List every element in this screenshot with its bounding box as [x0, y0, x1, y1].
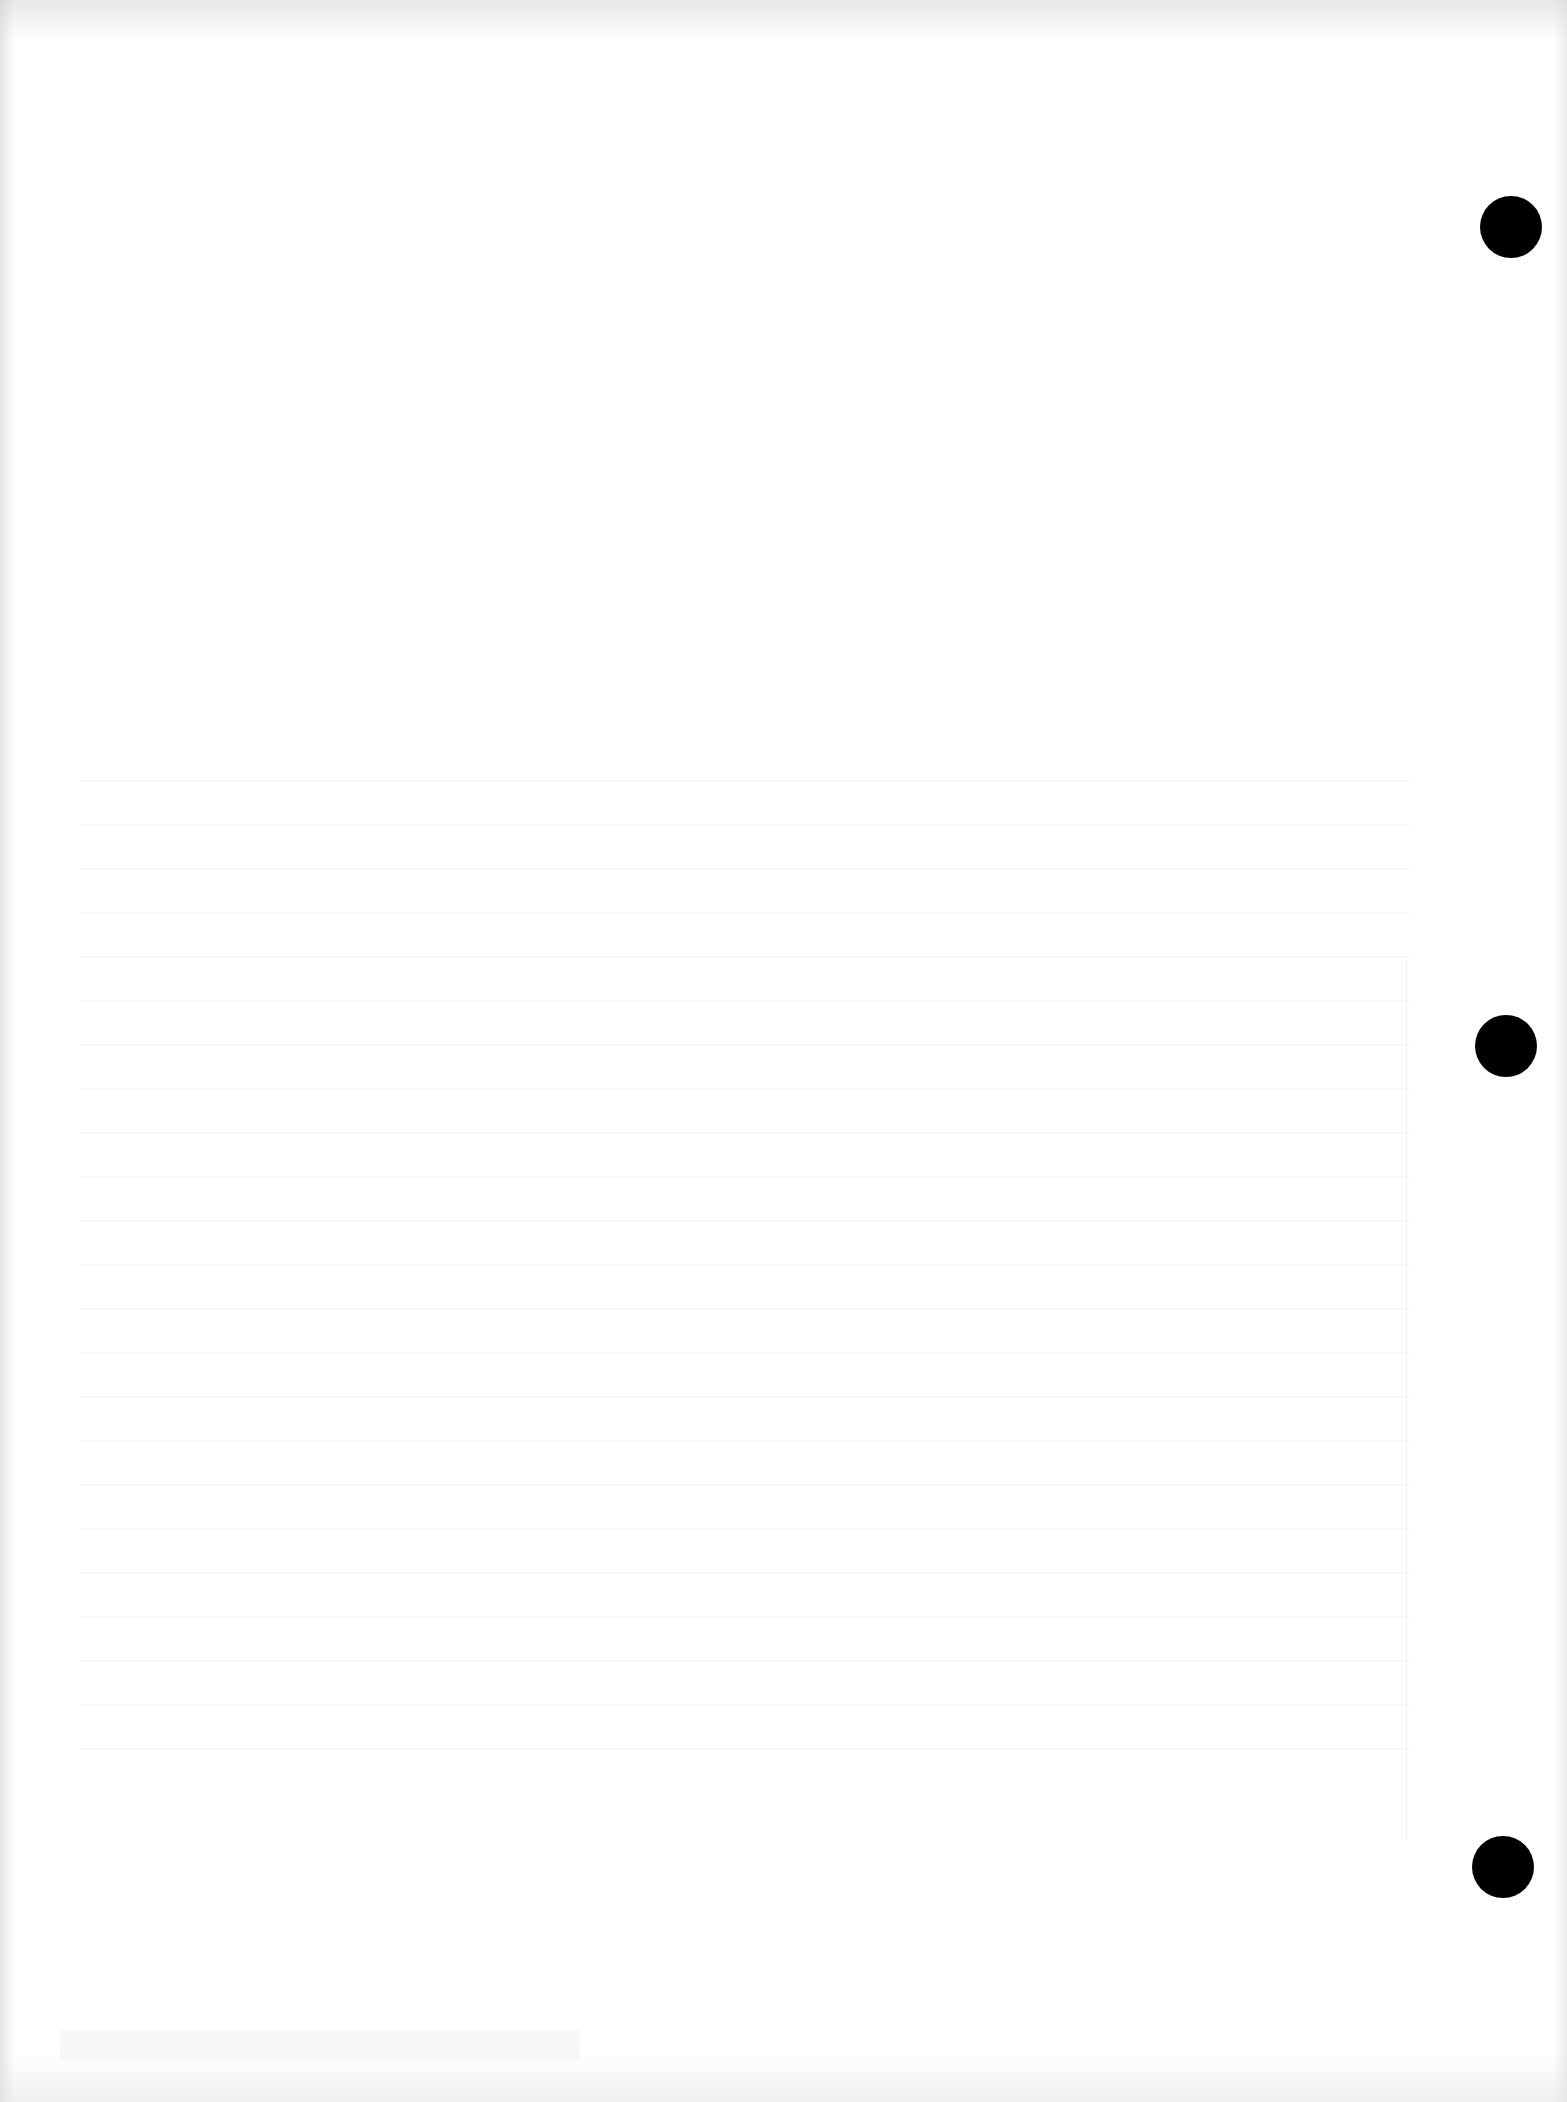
scan-edge-left-shadow — [0, 0, 14, 2102]
bleed-through-footer — [60, 2030, 580, 2060]
punch-hole-bottom — [1472, 1836, 1534, 1898]
scan-edge-right-shadow — [1553, 0, 1567, 2102]
scanned-page — [0, 0, 1567, 2102]
punch-hole-middle — [1475, 1015, 1537, 1077]
scan-edge-top-shadow — [0, 0, 1567, 40]
bleed-through-text-area — [80, 780, 1410, 1780]
bleed-through-vertical-rule — [1406, 960, 1407, 1840]
punch-hole-top — [1480, 196, 1542, 258]
